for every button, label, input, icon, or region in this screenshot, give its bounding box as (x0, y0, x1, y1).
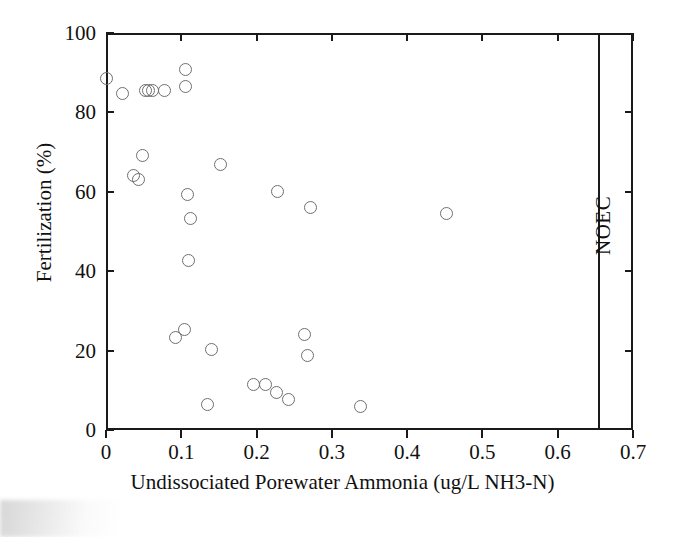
data-point (179, 80, 192, 93)
data-point (440, 207, 453, 220)
y-tick-60 (106, 191, 114, 193)
x-tick-label-0.5: 0.5 (452, 440, 512, 464)
y-tick-40 (106, 270, 114, 272)
x-tick-top-0.6 (557, 33, 559, 41)
y-tick-right-80 (625, 111, 633, 113)
data-point (100, 72, 113, 85)
x-axis-title: Undissociated Porewater Ammonia (ug/L NH… (0, 470, 685, 495)
x-tick-label-0.2: 0.2 (227, 440, 287, 464)
x-tick-0 (105, 430, 107, 438)
x-tick-top-0.5 (481, 33, 483, 41)
y-tick-20 (106, 350, 114, 352)
data-point (282, 393, 295, 406)
y-tick-right-60 (625, 191, 633, 193)
x-tick-label-0.4: 0.4 (377, 440, 437, 464)
y-tick-right-20 (625, 350, 633, 352)
x-tick-label-0.3: 0.3 (302, 440, 362, 464)
data-point (116, 87, 129, 100)
x-tick-0.3 (331, 430, 333, 438)
x-tick-label-0: 0 (76, 440, 136, 464)
x-tick-top-0.7 (632, 33, 634, 41)
y-tick-80 (106, 111, 114, 113)
data-point (146, 84, 159, 97)
x-tick-label-0.6: 0.6 (528, 440, 588, 464)
x-tick-0.7 (632, 430, 634, 438)
y-tick-100 (106, 32, 114, 34)
y-axis-title: Fertilization (%) (32, 83, 57, 343)
y-tick-label-100: 100 (30, 22, 96, 44)
data-point (158, 84, 171, 97)
x-tick-0.1 (180, 430, 182, 438)
data-point (136, 149, 149, 162)
x-tick-top-0.4 (406, 33, 408, 41)
x-tick-label-0.1: 0.1 (151, 440, 211, 464)
scatter-plot-figure: 00.10.20.30.40.50.60.7 020406080100 NOEC… (0, 0, 685, 537)
scan-artifact (0, 500, 120, 537)
y-tick-right-40 (625, 270, 633, 272)
x-tick-0.4 (406, 430, 408, 438)
y-tick-label-0: 0 (30, 419, 96, 441)
x-tick-top-0.3 (331, 33, 333, 41)
data-point (179, 63, 192, 76)
noec-label: NOEC (591, 196, 616, 255)
x-tick-0.5 (481, 430, 483, 438)
data-point (270, 386, 283, 399)
data-point (184, 212, 197, 225)
y-tick-0 (106, 429, 114, 431)
x-tick-label-0.7: 0.7 (603, 440, 663, 464)
x-tick-0.2 (256, 430, 258, 438)
x-tick-top-0.1 (180, 33, 182, 41)
x-tick-top-0.2 (256, 33, 258, 41)
y-tick-label-20: 20 (30, 340, 96, 362)
x-tick-0.6 (557, 430, 559, 438)
